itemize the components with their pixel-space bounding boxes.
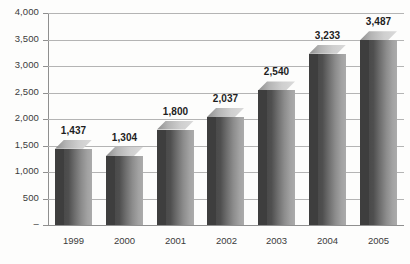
- y-axis-tick: [43, 172, 48, 173]
- x-axis-tick-label: 2004: [302, 235, 353, 246]
- bar-top-face: [309, 45, 346, 54]
- x-axis-tick-label: 2005: [353, 235, 404, 246]
- bar-top-face: [207, 108, 244, 117]
- bar-value-label: 3,487: [346, 16, 410, 27]
- bar: [106, 147, 143, 225]
- bar-front-face: [64, 149, 92, 225]
- y-axis-tick: [43, 40, 48, 41]
- x-axis-tick-label: 2001: [150, 235, 201, 246]
- y-axis-tick-label: 2,500: [0, 86, 39, 97]
- bar-top-face: [106, 147, 143, 156]
- y-axis-tick-label: 2,000: [0, 112, 39, 123]
- bar-value-label: 1,800: [143, 106, 208, 117]
- y-axis-tick-label: 3,000: [0, 59, 39, 70]
- bar-front-face: [369, 40, 397, 225]
- y-axis-tick-label: 4,000: [0, 6, 39, 17]
- x-axis-line: [48, 225, 404, 226]
- y-axis-tick: [43, 119, 48, 120]
- y-axis-tick: [43, 146, 48, 147]
- gridline: [48, 66, 404, 67]
- bar-side-face: [55, 149, 64, 225]
- y-axis-tick-label: 1,500: [0, 139, 39, 150]
- y-axis-tick-label: 1,000: [0, 165, 39, 176]
- gridline: [48, 13, 404, 14]
- bar-front-face: [267, 90, 295, 225]
- bar: [55, 140, 92, 225]
- bar-front-face: [166, 130, 194, 225]
- bar-side-face: [309, 54, 318, 225]
- bar-top-face: [360, 31, 397, 40]
- bar-side-face: [360, 40, 369, 225]
- bar: [309, 45, 346, 225]
- bar-side-face: [207, 117, 216, 225]
- bar-chart: –5001,0001,5002,0002,5003,0003,5004,000 …: [0, 0, 410, 264]
- bar-value-label: 3,233: [295, 30, 360, 41]
- bar: [258, 81, 295, 225]
- bar: [360, 31, 397, 225]
- bar-side-face: [157, 130, 166, 225]
- bar-side-face: [106, 156, 115, 225]
- bar-value-label: 2,037: [193, 93, 258, 104]
- bar: [207, 108, 244, 225]
- bar-top-face: [55, 140, 92, 149]
- y-axis-tick-label: –: [0, 218, 39, 229]
- y-axis-tick: [43, 93, 48, 94]
- x-axis-tick-label: 1999: [48, 235, 99, 246]
- bar-value-label: 1,304: [92, 132, 157, 143]
- bar-front-face: [115, 156, 143, 225]
- bar-value-label: 2,540: [244, 66, 309, 77]
- x-axis-tick-label: 2000: [99, 235, 150, 246]
- x-axis-tick-label: 2003: [251, 235, 302, 246]
- y-axis-tick: [43, 13, 48, 14]
- bar: [157, 121, 194, 225]
- y-axis-tick: [43, 66, 48, 67]
- bar-front-face: [318, 54, 346, 225]
- x-axis-tick-label: 2002: [201, 235, 252, 246]
- bar-front-face: [216, 117, 244, 225]
- bar-top-face: [258, 81, 295, 90]
- y-axis-tick-label: 3,500: [0, 33, 39, 44]
- bar-side-face: [258, 90, 267, 225]
- y-axis-tick: [43, 199, 48, 200]
- bar-top-face: [157, 121, 194, 130]
- y-axis-tick-label: 500: [0, 192, 39, 203]
